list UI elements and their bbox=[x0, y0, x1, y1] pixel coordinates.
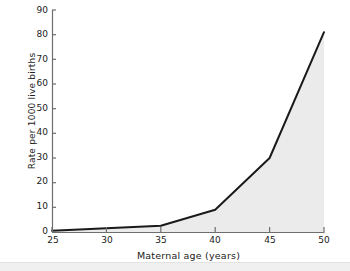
area-fill bbox=[52, 32, 324, 232]
page-bottom-strip bbox=[0, 262, 350, 271]
